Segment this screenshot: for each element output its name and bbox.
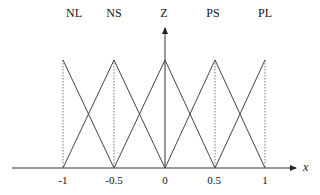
tick-0: 0 xyxy=(162,174,168,186)
tick-05: 0.5 xyxy=(207,174,221,186)
label-nl: NL xyxy=(66,6,82,20)
label-pl: PL xyxy=(258,6,272,20)
label-ns: NS xyxy=(106,6,121,20)
tick-neg05: -0.5 xyxy=(105,174,123,186)
tick-neg1: -1 xyxy=(58,174,67,186)
tick-1: 1 xyxy=(262,174,268,186)
label-z: Z xyxy=(160,6,167,20)
x-axis-label: x xyxy=(302,160,309,174)
label-ps: PS xyxy=(206,6,219,20)
membership-diagram: NL NS Z PS PL -1 -0.5 0 0.5 1 x xyxy=(0,0,320,195)
